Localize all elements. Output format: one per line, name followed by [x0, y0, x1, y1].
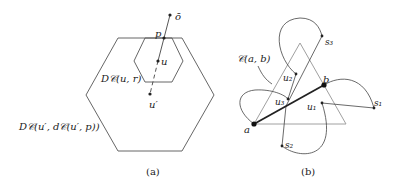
label-p: p — [155, 28, 162, 39]
label-u2: u₂ — [283, 73, 293, 83]
label-s1: s₁ — [374, 98, 382, 108]
point-u-prime — [148, 92, 151, 95]
label-o-bar: ō — [175, 11, 181, 22]
point-u3 — [287, 98, 290, 101]
dashed-u-to-uprime — [150, 61, 158, 94]
caption-a: (a) — [146, 166, 160, 177]
point-s2 — [281, 145, 284, 148]
curve-c-ab — [240, 18, 374, 154]
label-small-disk: D𝒞(u, r) — [100, 73, 141, 84]
point-u — [156, 59, 159, 62]
point-u2 — [295, 73, 298, 76]
point-s3 — [321, 35, 324, 38]
label-u-prime: u′ — [149, 99, 158, 110]
caption-b: (b) — [301, 166, 315, 177]
point-u1 — [321, 102, 324, 105]
label-curve: 𝒞(a, b) — [237, 53, 271, 64]
label-s2: s₂ — [285, 140, 294, 150]
figure-canvas: ō p u u′ D𝒞(u, r) D𝒞(u′, d𝒞(u′, p)) (a) … — [0, 0, 399, 187]
label-a: a — [244, 124, 250, 135]
label-big-disk: D𝒞(u′, d𝒞(u′, p)) — [18, 121, 100, 132]
arrow-c-ab — [258, 66, 272, 84]
figure-b: 𝒞(a, b) a b u₁ u₂ u₃ s₁ s₂ s₃ (b) — [237, 18, 382, 177]
point-o — [168, 13, 171, 16]
figure-a: ō p u u′ D𝒞(u, r) D𝒞(u′, d𝒞(u′, p)) (a) — [18, 11, 214, 177]
point-p — [162, 36, 165, 39]
label-s3: s₃ — [325, 37, 334, 47]
label-u: u — [161, 56, 167, 67]
label-u1: u₁ — [307, 102, 316, 112]
label-b: b — [323, 74, 329, 85]
label-u3: u₃ — [275, 97, 285, 107]
point-a — [251, 121, 256, 126]
